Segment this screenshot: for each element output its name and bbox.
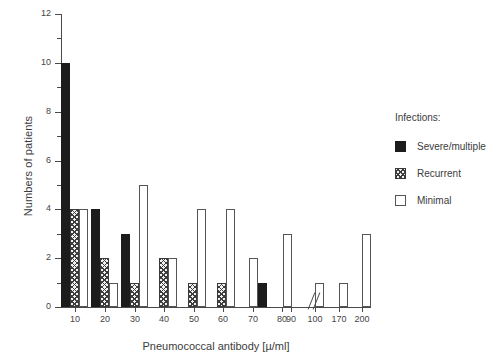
x-tick	[362, 307, 363, 312]
x-tick-label: 70	[238, 314, 268, 324]
bar-minimal	[168, 258, 177, 307]
y-tick-label: 0	[29, 302, 51, 311]
bar-recurrent	[159, 258, 168, 307]
bar-recurrent	[188, 283, 197, 307]
x-tick	[291, 307, 292, 312]
x-tick-label: 30	[120, 314, 150, 324]
legend-item: Minimal	[395, 195, 489, 206]
bar-recurrent	[217, 283, 226, 307]
bar-minimal	[109, 283, 118, 307]
legend-items: Severe/multipleRecurrentMinimal	[395, 141, 489, 206]
y-tick-minor	[57, 38, 61, 39]
bar-recurrent	[100, 258, 109, 307]
legend-label: Recurrent	[417, 168, 461, 179]
bar-minimal	[249, 258, 258, 307]
y-tick-label: 8	[29, 107, 51, 116]
legend: Infections: Severe/multipleRecurrentMini…	[395, 112, 489, 222]
x-tick-label: 60	[208, 314, 238, 324]
bar-severe-multiple	[121, 234, 130, 307]
x-tick	[282, 307, 283, 312]
x-tick-label: 40	[149, 314, 179, 324]
legend-label: Severe/multiple	[417, 141, 486, 152]
bar-severe-multiple	[258, 283, 267, 307]
x-tick	[339, 307, 340, 312]
y-tick-label: 4	[29, 204, 51, 213]
y-tick-label: 6	[29, 156, 51, 165]
axis-break-mark	[307, 292, 323, 310]
y-tick-label: 10	[29, 58, 51, 67]
legend-title: Infections:	[395, 112, 489, 123]
bar-minimal	[339, 283, 348, 307]
x-axis-line	[61, 307, 371, 308]
y-tick-major	[55, 14, 61, 15]
x-tick-label: 10	[60, 314, 90, 324]
legend-label: Minimal	[417, 195, 451, 206]
bar-severe-multiple	[91, 209, 100, 307]
x-tick	[223, 307, 224, 312]
bar-minimal	[362, 234, 371, 307]
y-tick-label: 2	[29, 253, 51, 262]
bar-minimal	[197, 209, 206, 307]
bar-minimal	[283, 234, 292, 307]
legend-swatch-recurrent	[395, 168, 406, 179]
legend-item: Recurrent	[395, 168, 489, 179]
legend-swatch-minimal	[395, 195, 406, 206]
x-tick-label: 20	[90, 314, 120, 324]
x-tick-label: 50	[179, 314, 209, 324]
y-tick-label: 12	[29, 9, 51, 18]
x-tick	[253, 307, 254, 312]
legend-item: Severe/multiple	[395, 141, 489, 152]
x-tick	[75, 307, 76, 312]
x-tick-label: 200	[347, 314, 377, 324]
x-tick	[105, 307, 106, 312]
bar-minimal	[139, 185, 148, 307]
bar-minimal	[226, 209, 235, 307]
bar-minimal	[79, 209, 88, 307]
bar-recurrent	[70, 209, 79, 307]
bar-severe-multiple	[61, 63, 70, 307]
x-tick	[135, 307, 136, 312]
chart-figure: Numbers of patients Pneumococcal antibod…	[0, 0, 489, 360]
legend-swatch-severe	[395, 141, 406, 152]
x-tick	[194, 307, 195, 312]
bar-recurrent	[130, 283, 139, 307]
x-tick	[164, 307, 165, 312]
y-tick-major	[55, 307, 61, 308]
